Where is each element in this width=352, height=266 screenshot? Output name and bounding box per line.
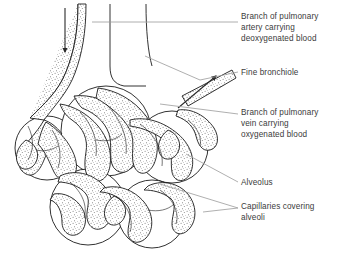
label-fine-bronchiole: Fine bronchiole [241, 67, 298, 78]
label-capillaries: Capillaries covering alveoli [241, 201, 314, 223]
diagram-page: Branch of pulmonary artery carrying deox… [0, 0, 352, 266]
label-alveolus: Alveolus [241, 177, 273, 188]
fine-bronchiole-duct [110, 4, 152, 86]
alveoli-cluster [15, 4, 236, 248]
label-pulmonary-artery: Branch of pulmonary artery carrying deox… [241, 11, 318, 44]
label-pulmonary-vein: Branch of pulmonary vein carrying oxygen… [241, 107, 318, 140]
leader-capillary-2 [203, 208, 238, 212]
